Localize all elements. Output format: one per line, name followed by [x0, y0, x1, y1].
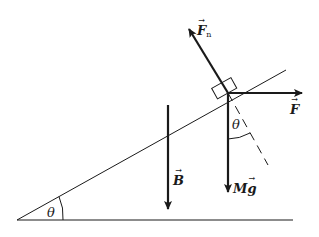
normal-force-symbol: F [197, 24, 206, 37]
weight-g-symbol: g [247, 182, 256, 195]
normal-force-subscript: n [206, 30, 211, 39]
weight-angle-arc [228, 133, 250, 139]
applied-force-symbol: F [290, 103, 299, 116]
weight-mass-symbol: M [233, 181, 247, 196]
weight-angle-label: θ [232, 117, 240, 132]
weight-label: Mg [233, 182, 256, 195]
applied-force-label: F [290, 103, 299, 116]
incline-angle-label: θ [47, 205, 55, 220]
b-field-label: B [173, 174, 184, 187]
normal-force-label: Fn [197, 24, 211, 39]
diagram-graphics [0, 0, 319, 237]
incline-angle-arc [59, 197, 63, 220]
b-field-symbol: B [173, 174, 184, 187]
inclined-plane-diagram: Fn F B Mg θ θ [0, 0, 319, 237]
